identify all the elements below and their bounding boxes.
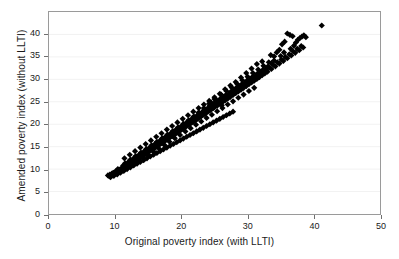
- x-axis-title: Original poverty index (with LLTI): [0, 236, 399, 247]
- y-tick-mark: [44, 79, 48, 80]
- data-point: [319, 22, 325, 28]
- data-point: [251, 85, 257, 91]
- x-tick-mark: [381, 215, 382, 219]
- data-point: [254, 61, 260, 67]
- data-point: [241, 92, 247, 98]
- y-tick-mark: [44, 102, 48, 103]
- x-tick-label: 10: [102, 222, 128, 231]
- x-tick-mark: [314, 215, 315, 219]
- data-point: [190, 109, 196, 115]
- data-point: [143, 141, 149, 147]
- data-point: [164, 127, 170, 133]
- data-point: [132, 148, 138, 154]
- x-tick-label: 20: [168, 222, 194, 231]
- y-tick-mark: [44, 124, 48, 125]
- data-point: [121, 155, 127, 161]
- x-tick-label: 30: [235, 222, 261, 231]
- data-point: [127, 152, 133, 158]
- scatter-plot-figure: 0510152025303540 01020304050 Original po…: [0, 0, 399, 259]
- y-tick-mark: [44, 56, 48, 57]
- y-tick-mark: [44, 34, 48, 35]
- x-tick-mark: [115, 215, 116, 219]
- data-point: [180, 116, 186, 122]
- data-point: [137, 144, 143, 150]
- y-tick-mark: [44, 170, 48, 171]
- data-points: [49, 12, 380, 214]
- x-tick-label: 40: [301, 222, 327, 231]
- data-point: [246, 88, 252, 94]
- y-tick-mark: [44, 147, 48, 148]
- x-tick-label: 0: [35, 222, 61, 231]
- x-tick-label: 50: [368, 222, 394, 231]
- y-tick-mark: [44, 192, 48, 193]
- y-axis-title: Amended poverty index (without LLTI): [16, 11, 27, 221]
- x-tick-mark: [181, 215, 182, 219]
- data-point: [248, 65, 254, 71]
- data-point: [153, 134, 159, 140]
- data-point: [169, 123, 175, 129]
- x-tick-mark: [248, 215, 249, 219]
- data-point: [148, 137, 154, 143]
- data-point: [158, 130, 164, 136]
- data-point: [259, 58, 265, 64]
- x-tick-mark: [48, 215, 49, 219]
- data-point: [174, 119, 180, 125]
- plot-area: [48, 11, 381, 215]
- data-point: [185, 112, 191, 118]
